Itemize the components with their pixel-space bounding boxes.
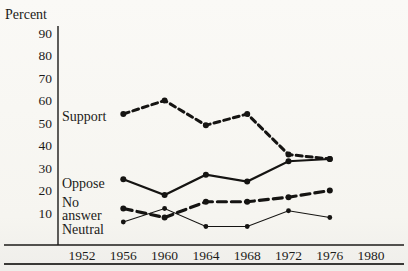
series-line-oppose	[123, 159, 329, 195]
data-point-oppose	[203, 172, 209, 178]
data-point-neutral	[327, 215, 332, 220]
data-point-neutral	[204, 224, 209, 229]
y-axis-title: Percent	[5, 7, 47, 22]
series-line-no_answer	[123, 191, 329, 218]
data-point-oppose	[286, 158, 292, 164]
x-tick-label: 1960	[151, 248, 178, 263]
series-label-no_answer: answer	[62, 208, 102, 223]
x-tick-label: 1952	[69, 248, 96, 263]
x-tick-label: 1964	[192, 248, 219, 263]
data-point-oppose	[244, 179, 250, 185]
series-inline-labels: SupportOpposeNoanswerNeutral	[62, 109, 106, 237]
chart-series	[120, 98, 332, 229]
data-point-support	[120, 111, 126, 117]
data-point-no_answer	[162, 215, 168, 221]
data-point-support	[244, 111, 250, 117]
data-point-oppose	[327, 156, 333, 162]
series-line-neutral	[123, 209, 329, 227]
data-point-no_answer	[286, 194, 292, 200]
data-point-neutral	[245, 224, 250, 229]
y-axis-tick-labels: 908070605040302010	[39, 26, 53, 221]
y-tick-label: 90	[39, 26, 53, 41]
y-tick-label: 10	[39, 206, 53, 221]
x-tick-label: 1972	[275, 248, 302, 263]
data-point-support	[162, 98, 168, 104]
y-tick-label: 60	[39, 93, 53, 108]
data-point-no_answer	[327, 188, 333, 194]
series-label-oppose: Oppose	[62, 176, 105, 191]
series-line-support	[123, 101, 329, 160]
data-point-no_answer	[120, 206, 126, 212]
y-tick-label: 40	[39, 138, 53, 153]
data-point-support	[203, 122, 209, 128]
data-point-neutral	[286, 208, 291, 213]
y-tick-label: 70	[39, 71, 53, 86]
data-point-no_answer	[244, 199, 250, 205]
x-tick-label: 1976	[316, 248, 343, 263]
y-tick-label: 20	[39, 183, 53, 198]
data-point-support	[286, 152, 292, 158]
data-point-no_answer	[203, 199, 209, 205]
x-tick-label: 1968	[234, 248, 261, 263]
data-point-neutral	[162, 206, 167, 211]
data-point-neutral	[121, 220, 126, 225]
line-chart: Percent 908070605040302010 1952195619601…	[0, 0, 408, 271]
x-tick-label: 1956	[110, 248, 137, 263]
series-label-support: Support	[62, 109, 106, 124]
data-point-oppose	[162, 192, 168, 198]
y-tick-label: 50	[39, 116, 53, 131]
y-tick-label: 80	[39, 48, 53, 63]
y-tick-label: 30	[39, 161, 53, 176]
data-point-oppose	[120, 176, 126, 182]
x-tick-label: 1980	[358, 248, 385, 263]
series-label-neutral: Neutral	[62, 222, 104, 237]
chart-figure: Percent 908070605040302010 1952195619601…	[0, 0, 408, 271]
x-axis-tick-labels: 19521956196019641968197219761980	[69, 248, 385, 263]
